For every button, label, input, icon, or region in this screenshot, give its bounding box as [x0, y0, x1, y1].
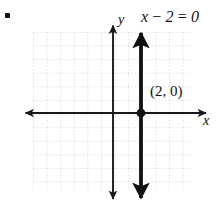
equation-equals-operator: =	[174, 8, 191, 25]
equation-minus-operator: −	[149, 8, 166, 25]
equation-constant: 2	[166, 8, 175, 25]
x-axis-label: x	[203, 114, 209, 128]
equation-right-side: 0	[191, 8, 200, 25]
equation-label: x − 2 = 0	[141, 9, 199, 25]
coordinate-plane-figure: x − 2 = 0 y x (2, 0)	[0, 0, 221, 209]
point-label-2-0: (2, 0)	[150, 84, 183, 99]
point-marker-2-0	[137, 109, 146, 118]
equation-text: x	[141, 8, 149, 25]
y-axis-label: y	[118, 13, 124, 27]
coordinate-plane-plot	[0, 0, 221, 209]
